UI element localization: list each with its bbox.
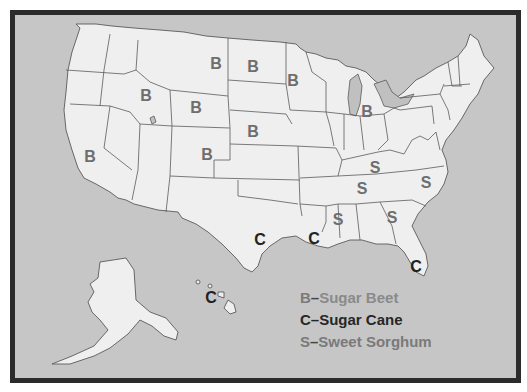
marker-california: B [84,149,96,165]
legend-sugar-beet: B–Sugar Beet [300,287,432,309]
map-legend: B–Sugar Beet C–Sugar Cane S–Sweet Sorghu… [300,287,432,353]
hawaii-maui [218,292,224,298]
legend-sweet-sorghum: S–Sweet Sorghum [300,331,432,353]
legend-label: Sweet Sorghum [318,333,431,350]
legend-label: Sugar Beet [319,289,398,306]
marker-nebraska: B [247,124,259,140]
marker-minnesota: B [287,73,299,89]
marker-north-carolina: S [421,175,432,191]
marker-north-dakota: B [247,59,259,75]
marker-kentucky: S [370,160,381,176]
hawaii-main [224,300,236,314]
us-map [15,15,516,378]
marker-montana: B [210,56,222,72]
marker-texas: C [254,232,266,248]
hawaii-oahu [208,284,212,288]
legend-code: B [300,289,311,306]
marker-tennessee: S [357,181,368,197]
alaska [52,258,178,364]
marker-michigan: B [361,104,373,120]
marker-mississippi: S [333,212,344,228]
marker-hawaii: C [205,290,217,306]
marker-idaho: B [140,88,152,104]
map-frame: B B B B B B B B B S S S S S C C C C B–Su… [10,10,521,383]
legend-dash: – [311,311,319,328]
hawaii-kauai [196,280,200,284]
marker-florida: C [410,259,422,275]
marker-wyoming: B [190,100,202,116]
marker-colorado: B [201,147,213,163]
marker-georgia: S [387,210,398,226]
legend-code: C [300,311,311,328]
marker-louisiana: C [308,231,320,247]
contiguous-us [64,24,494,276]
legend-dash: – [311,289,319,306]
legend-label: Sugar Cane [319,311,402,328]
legend-sugar-cane: C–Sugar Cane [300,309,432,331]
legend-code: S [300,333,310,350]
